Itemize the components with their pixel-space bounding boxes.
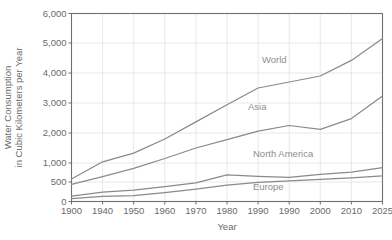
y-axis-tick-label: 5,000 xyxy=(43,37,67,48)
y-axis-tick-label: 6,000 xyxy=(43,8,67,19)
y-axis-tick-label: 4,000 xyxy=(43,67,67,78)
y-axis-tick-label: 500 xyxy=(51,176,67,187)
x-axis-tick-label: 2025 xyxy=(372,205,392,216)
x-axis-tick-label: 1980 xyxy=(216,205,237,216)
x-axis-tick-labels: 1900194019501960197019801990199020002010… xyxy=(61,202,392,217)
y-axis-tick-labels: 05001,0002,0003,0004,0005,0006,000 xyxy=(43,8,72,207)
series-label-world: World xyxy=(262,54,287,65)
series-label-asia: Asia xyxy=(248,101,267,112)
y-axis-tick-label: 2,000 xyxy=(43,127,67,138)
x-axis-title: Year xyxy=(217,221,236,232)
y-axis-tick-label: 3,000 xyxy=(43,97,67,108)
series-label-europe: Europe xyxy=(253,181,284,192)
x-axis-tick-label: 1970 xyxy=(185,205,206,216)
y-axis-tick-label: 1,000 xyxy=(43,157,67,168)
x-axis-tick-label: 2010 xyxy=(341,205,362,216)
y-axis-title-text: in Cubic Kilometers per Year xyxy=(13,48,24,168)
x-axis-tick-label: 1990 xyxy=(279,205,300,216)
y-axis-title: Water Consumptionin Cubic Kilometers per… xyxy=(2,48,24,168)
x-axis-tick-label: 1940 xyxy=(92,205,113,216)
x-axis-tick-label: 1950 xyxy=(123,205,144,216)
x-axis-tick-label: 1990 xyxy=(248,205,269,216)
x-axis-tick-label: 1960 xyxy=(154,205,175,216)
y-axis-title-text: Water Consumption xyxy=(2,66,13,150)
x-axis-tick-label: 2000 xyxy=(310,205,331,216)
x-axis-title-text: Year xyxy=(217,221,236,232)
chart-canvas: 05001,0002,0003,0004,0005,0006,000 19001… xyxy=(0,0,392,240)
series-label-north-america: North America xyxy=(253,148,314,159)
x-axis-tick-label: 1900 xyxy=(61,205,82,216)
water-consumption-line-chart: 05001,0002,0003,0004,0005,0006,000 19001… xyxy=(0,0,392,240)
